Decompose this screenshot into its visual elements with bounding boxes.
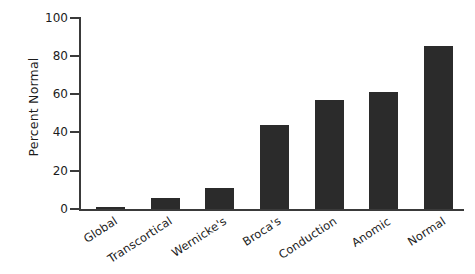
bar-chart-figure: Percent Normal 020406080100 GlobalTransc… xyxy=(0,0,475,274)
bar xyxy=(424,46,453,209)
x-tick-label: Normal xyxy=(405,214,448,249)
y-tick-label: 80 xyxy=(38,49,68,63)
y-tick-label: 20 xyxy=(38,164,68,178)
bar xyxy=(151,198,180,209)
bar xyxy=(205,188,234,209)
y-tick-label: 40 xyxy=(38,125,68,139)
x-tick-label: Anomic xyxy=(349,214,393,249)
plot-area xyxy=(81,17,464,209)
y-tick-label: 0 xyxy=(38,202,68,216)
x-tick-label: Conduction xyxy=(276,214,339,262)
x-tick-label: Wernicke's xyxy=(169,214,229,260)
bar xyxy=(96,207,125,209)
x-tick-label: Broca's xyxy=(240,214,283,249)
bar xyxy=(369,92,398,209)
y-tick-label: 100 xyxy=(38,11,68,25)
y-axis-tick-labels: 020406080100 xyxy=(38,0,68,274)
bar xyxy=(315,100,344,209)
bar xyxy=(260,125,289,209)
y-tick-label: 60 xyxy=(38,87,68,101)
x-tick-label: Global xyxy=(81,214,120,246)
